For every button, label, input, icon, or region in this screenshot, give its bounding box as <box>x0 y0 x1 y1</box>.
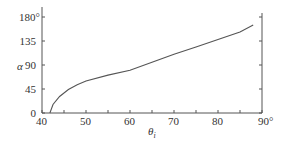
x-tick-label: 40 <box>36 115 48 127</box>
x-tick-label: 50 <box>80 115 92 127</box>
y-tick-label: 180° <box>19 11 40 23</box>
y-tick-label: 135 <box>20 35 37 47</box>
x-axis-label: θi <box>148 125 156 140</box>
x-tick-label: 80 <box>212 115 224 127</box>
x-tick-label: 90° <box>258 115 273 127</box>
ticks <box>42 17 262 113</box>
x-tick-label: 60 <box>124 115 136 127</box>
axes <box>42 7 262 113</box>
y-tick-label: 45 <box>25 83 37 95</box>
data-curve <box>50 25 253 113</box>
y-tick-label: 0 <box>31 107 37 119</box>
x-tick-label: 70 <box>168 115 180 127</box>
y-axis-label: α <box>17 60 23 72</box>
y-tick-label: 90 <box>25 59 37 71</box>
chart: 405060708090°04590135180° α θi <box>0 0 287 141</box>
tick-labels: 405060708090°04590135180° <box>19 11 273 127</box>
